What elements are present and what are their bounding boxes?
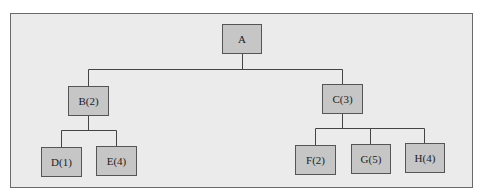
node-b: B(2) (68, 86, 109, 116)
node-c: C(3) (322, 84, 363, 114)
node-d-label: D(1) (51, 156, 72, 168)
node-h: H(4) (405, 143, 445, 173)
node-e: E(4) (96, 146, 137, 176)
node-g: G(5) (351, 144, 391, 174)
node-d: D(1) (41, 147, 82, 177)
node-g-label: G(5) (361, 153, 382, 165)
node-a-label: A (238, 33, 246, 45)
node-h-label: H(4) (415, 152, 436, 164)
node-b-label: B(2) (78, 95, 98, 107)
node-f: F(2) (295, 145, 336, 175)
node-a: A (222, 24, 262, 54)
node-c-label: C(3) (332, 93, 352, 105)
node-f-label: F(2) (306, 154, 325, 166)
node-e-label: E(4) (107, 155, 127, 167)
